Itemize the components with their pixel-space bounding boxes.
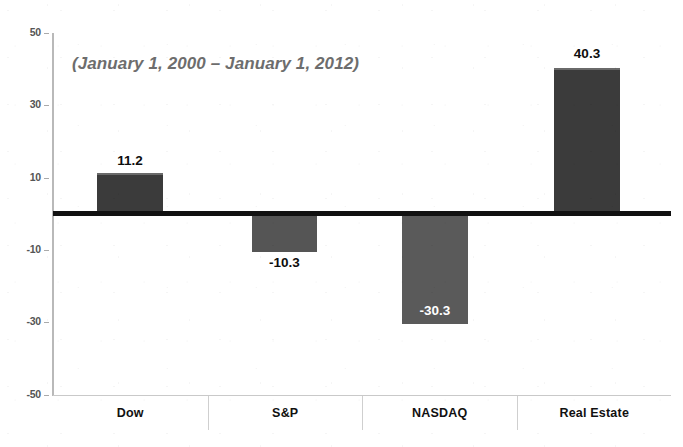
y-tick-label: 10 [30, 171, 41, 183]
zero-baseline [53, 211, 671, 216]
bar-value-real-estate: 40.3 [554, 46, 620, 61]
category-cell-sp: S&P [208, 396, 363, 430]
y-tick-label: 30 [30, 98, 41, 110]
category-label: S&P [272, 406, 298, 420]
y-tick-mark [44, 178, 49, 180]
category-label: Real Estate [559, 406, 629, 420]
bar-value-sp: -10.3 [252, 255, 317, 270]
category-label: Dow [117, 406, 144, 420]
category-cell-dow: Dow [53, 396, 208, 430]
y-tick-mark [44, 322, 49, 324]
y-tick-label: -10 [26, 243, 41, 255]
y-tick-mark [44, 105, 49, 107]
bar-dow [97, 173, 163, 214]
category-axis: Dow S&P NASDAQ Real Estate [53, 396, 671, 430]
bar-value-dow: 11.2 [97, 153, 163, 168]
category-cell-nasdaq: NASDAQ [362, 396, 517, 430]
y-tick-mark [44, 250, 49, 252]
bar-sp [252, 214, 317, 252]
y-tick-label: -30 [26, 315, 41, 327]
bar-chart: (January 1, 2000 – January 1, 2012) 50 3… [0, 0, 683, 447]
bar-value-nasdaq: -30.3 [402, 303, 468, 318]
category-cell-real-estate: Real Estate [517, 396, 672, 430]
y-tick-mark [44, 395, 49, 397]
y-tick-label: -50 [26, 388, 41, 400]
category-label: NASDAQ [412, 406, 467, 420]
chart-title: (January 1, 2000 – January 1, 2012) [72, 54, 359, 74]
y-tick-mark [44, 33, 49, 35]
y-tick-label: 50 [30, 26, 41, 38]
bar-real-estate [554, 68, 620, 214]
